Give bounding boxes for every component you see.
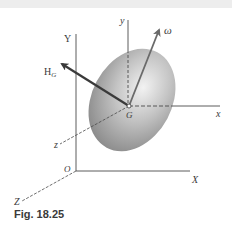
figure-caption: Fig. 18.25 bbox=[14, 208, 64, 220]
label-z: z bbox=[53, 139, 58, 150]
label-G: G bbox=[126, 110, 133, 120]
rigid-body-diagram: Y O X Z y x z G ω HG bbox=[0, 0, 232, 232]
label-Y: Y bbox=[64, 33, 71, 44]
label-omega: ω bbox=[164, 24, 172, 36]
label-X: X bbox=[191, 174, 199, 185]
Z-axis bbox=[22, 171, 76, 201]
label-x: x bbox=[215, 108, 221, 119]
label-Z: Z bbox=[14, 196, 20, 207]
label-O: O bbox=[64, 164, 71, 174]
mass-center-point bbox=[127, 104, 131, 108]
label-H: HG bbox=[44, 66, 56, 79]
label-y: y bbox=[119, 15, 125, 26]
